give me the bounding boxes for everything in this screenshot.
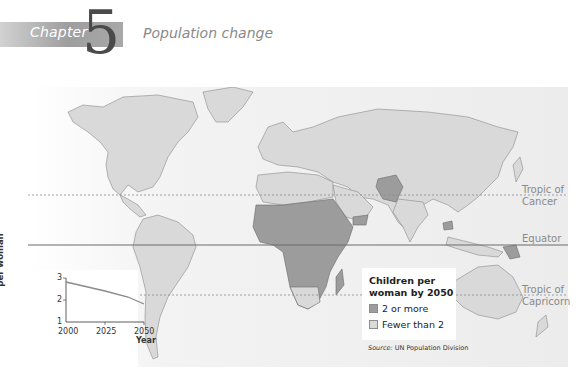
x-tick-2025: 2025	[96, 327, 116, 336]
y-tick-1: 1	[57, 317, 62, 326]
central-america	[120, 195, 146, 217]
tropic-of-cancer-label: Tropic of Cancer	[522, 184, 564, 208]
chapter-number: 5	[82, 2, 120, 62]
legend-item-two-or-more: 2 or more	[369, 303, 428, 314]
papua-new-guinea	[503, 245, 520, 259]
chapter-title: Population change	[143, 25, 273, 41]
north-africa	[256, 172, 333, 205]
north-america	[68, 95, 198, 195]
legend-title: Children per woman by 2050	[369, 275, 455, 299]
southern-africa	[290, 287, 320, 309]
dark-swatch-icon	[369, 304, 378, 313]
light-swatch-icon	[369, 320, 378, 329]
cambodia	[443, 221, 453, 230]
yemen	[353, 215, 368, 225]
y-tick-3: 3	[57, 273, 62, 282]
y-tick-2: 2	[57, 295, 62, 304]
trend-line	[66, 282, 144, 304]
inset-y-axis-label: Average children per woman	[0, 220, 5, 300]
x-tick-2050: 2050	[134, 327, 154, 336]
madagascar	[336, 269, 344, 295]
indonesia	[446, 237, 503, 257]
x-axis-label: Year	[136, 336, 156, 345]
japan	[513, 157, 523, 182]
source-note: Source: UN Population Division	[368, 344, 468, 352]
chapter-label: Chapter	[30, 24, 87, 40]
new-zealand	[536, 315, 548, 337]
map-legend: Children per woman by 2050 2 or more Few…	[362, 268, 456, 340]
equator-label: Equator	[522, 233, 561, 245]
inset-chart-plot	[60, 276, 150, 326]
chapter-header: Chapter 5 Population change	[0, 0, 586, 70]
legend-item-fewer-than-two: Fewer than 2	[369, 319, 444, 330]
tropic-of-capricorn-label: Tropic of Capricorn	[522, 284, 570, 308]
australia	[453, 265, 523, 319]
x-tick-2000: 2000	[58, 327, 78, 336]
greenland	[203, 87, 253, 122]
